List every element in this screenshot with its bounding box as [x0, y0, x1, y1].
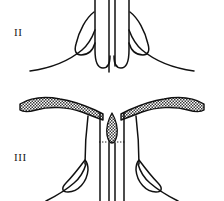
- figure-iii-label: III: [14, 152, 27, 163]
- anatomical-plate: [0, 0, 224, 201]
- figure-ii-label: II: [14, 27, 23, 38]
